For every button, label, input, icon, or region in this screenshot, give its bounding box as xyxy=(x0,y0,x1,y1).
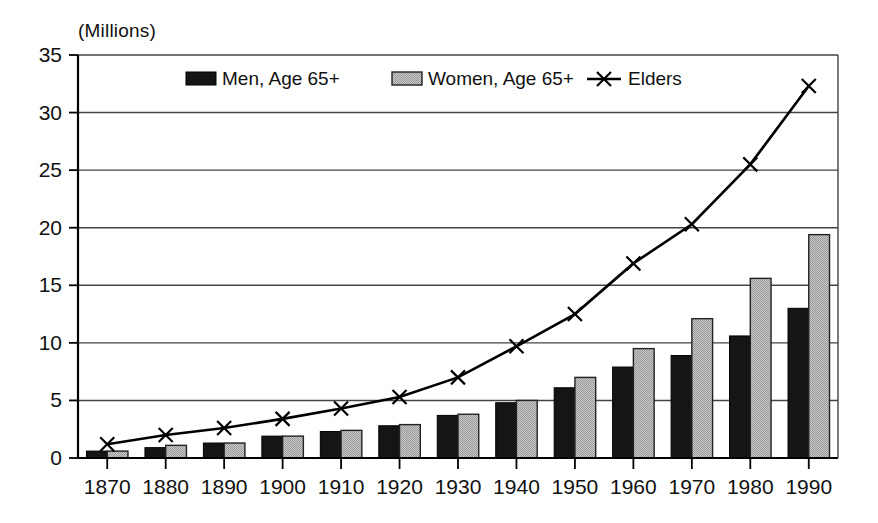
x-tick-label: 1980 xyxy=(727,475,774,498)
x-tick-label: 1870 xyxy=(84,475,131,498)
x-tick-label: 1970 xyxy=(668,475,715,498)
x-tick-label: 1950 xyxy=(552,475,599,498)
bar-men-1880 xyxy=(145,448,166,458)
y-axis-ticks-group xyxy=(69,55,78,458)
chart-canvas: 05101520253035 1870188018901900191019201… xyxy=(0,0,878,523)
legend-label-men: Men, Age 65+ xyxy=(222,68,340,89)
bar-men-1900 xyxy=(262,436,283,458)
legend-label-elders: Elders xyxy=(628,68,682,89)
x-tick-label: 1930 xyxy=(435,475,482,498)
y-tick-label: 25 xyxy=(39,158,62,181)
y-tick-label: 5 xyxy=(50,388,62,411)
bar-women-1950 xyxy=(575,377,596,458)
bar-women-1980 xyxy=(750,278,771,458)
x-tick-label: 1890 xyxy=(201,475,248,498)
bar-women-1990 xyxy=(809,235,830,458)
bar-women-1930 xyxy=(458,414,479,458)
bar-men-1930 xyxy=(437,415,458,458)
y-tick-label: 10 xyxy=(39,331,62,354)
bar-men-1910 xyxy=(320,432,341,458)
gridlines-group xyxy=(78,55,838,458)
legend-swatch-men xyxy=(186,72,216,85)
bar-women-1910 xyxy=(341,430,362,458)
bar-men-1970 xyxy=(671,356,692,458)
bar-women-1970 xyxy=(692,319,713,458)
bar-men-1990 xyxy=(788,308,809,458)
bar-men-1920 xyxy=(379,426,400,458)
bar-women-1880 xyxy=(166,445,187,458)
bar-women-1890 xyxy=(224,443,245,458)
y-tick-label: 35 xyxy=(39,43,62,66)
legend-label-women: Women, Age 65+ xyxy=(428,68,574,89)
x-tick-label: 1940 xyxy=(493,475,540,498)
x-axis-labels-group: 1870188018901900191019201930194019501960… xyxy=(84,475,832,498)
bar-women-1900 xyxy=(283,436,304,458)
legend-swatch-women xyxy=(392,72,422,85)
bar-men-1950 xyxy=(554,388,575,458)
chart-figure: (Millions) 05101520253035 18701880189019… xyxy=(0,0,878,523)
y-tick-label: 20 xyxy=(39,216,62,239)
bar-men-1960 xyxy=(613,367,634,458)
y-tick-label: 15 xyxy=(39,273,62,296)
y-tick-label: 0 xyxy=(50,446,62,469)
chart-legend: Men, Age 65+Women, Age 65+Elders xyxy=(186,68,682,89)
x-tick-label: 1920 xyxy=(376,475,423,498)
x-axis-ticks-group xyxy=(107,458,809,469)
x-tick-label: 1960 xyxy=(610,475,657,498)
x-tick-label: 1880 xyxy=(142,475,189,498)
bar-men-1980 xyxy=(730,336,751,458)
bar-men-1940 xyxy=(496,403,517,458)
bar-women-1920 xyxy=(400,425,421,458)
bar-women-1960 xyxy=(633,349,654,458)
y-tick-label: 30 xyxy=(39,101,62,124)
bar-women-1940 xyxy=(516,400,537,458)
bar-men-1890 xyxy=(203,443,224,458)
y-axis-labels-group: 05101520253035 xyxy=(39,43,62,469)
x-tick-label: 1990 xyxy=(785,475,832,498)
x-tick-label: 1900 xyxy=(259,475,306,498)
axes-group xyxy=(78,55,838,458)
bars-group xyxy=(86,235,829,458)
x-tick-label: 1910 xyxy=(318,475,365,498)
